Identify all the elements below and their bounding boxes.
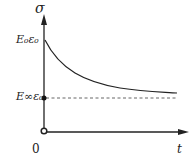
decay-curve [45,40,177,93]
initial-value-label: E₀ε₀ [16,33,39,46]
origin-marker [41,128,47,134]
x-axis-arrow-icon [178,129,189,135]
y-axis-label: σ [35,0,45,16]
asymptote-label: E∞ε₀ [16,90,44,103]
origin-label: 0 [32,142,40,156]
diagram-canvas [0,0,196,161]
x-axis-label: t [177,142,182,156]
